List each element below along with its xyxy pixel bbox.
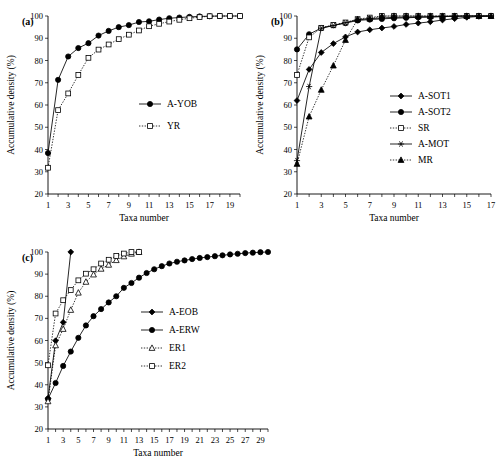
data-point-filled-circle [96, 33, 101, 38]
data-point-open-square [197, 15, 202, 20]
series-path [48, 252, 71, 398]
y-axis-title: Accumulative density (%) [255, 55, 266, 155]
legend-label: SR [418, 123, 430, 133]
data-point-filled-circle [144, 270, 149, 275]
x-tick-label: 7 [91, 435, 95, 445]
data-point-filled-diamond [355, 29, 361, 35]
data-point-filled-circle [129, 280, 134, 285]
data-point-open-square [207, 14, 212, 19]
data-point-open-square [106, 42, 111, 47]
x-tick-label: 17 [487, 200, 496, 210]
data-point-open-square [96, 47, 101, 52]
legend-label: A-ERW [169, 325, 200, 335]
y-tick-label: 40 [35, 380, 44, 390]
data-point-open-square [76, 278, 81, 283]
data-point-open-square [126, 32, 131, 37]
data-point-open-square [46, 165, 51, 170]
panel-a: (a)2030405060708090100135791113151719Tax… [0, 0, 250, 238]
x-tick-label: 11 [120, 435, 128, 445]
data-point-open-square [114, 254, 119, 259]
y-tick-label: 60 [35, 336, 44, 346]
series-A-EOB [45, 249, 74, 401]
data-point-filled-triangle [318, 87, 324, 93]
y-axis-title: Accumulative density (%) [6, 291, 17, 391]
data-point-filled-circle [116, 25, 121, 30]
data-point-filled-diamond [415, 20, 421, 26]
data-point-open-square [86, 55, 91, 60]
x-tick-label: 13 [135, 435, 144, 445]
data-point-open-square [150, 364, 155, 369]
legend-item-A-ERW: A-ERW [141, 325, 200, 335]
data-point-open-triangle [106, 262, 112, 268]
data-point-filled-circle [182, 258, 187, 263]
data-point-filled-circle [99, 306, 104, 311]
y-tick-label: 40 [35, 145, 44, 155]
y-tick-label: 90 [284, 33, 293, 43]
data-point-filled-diamond [379, 25, 385, 31]
x-tick-label: 17 [205, 200, 214, 210]
x-tick-label: 9 [107, 435, 111, 445]
data-point-open-square [157, 21, 162, 26]
data-point-filled-circle [126, 23, 131, 28]
y-tick-label: 20 [35, 189, 44, 199]
y-tick-label: 30 [284, 167, 293, 177]
data-point-open-square [99, 261, 104, 266]
data-point-open-square [238, 14, 243, 19]
figure-accumulative-density-curves: (a)2030405060708090100135791113151719Tax… [0, 0, 501, 475]
data-point-open-triangle [53, 342, 59, 348]
x-tick-label: 11 [145, 200, 153, 210]
x-tick-label: 23 [211, 435, 220, 445]
data-point-open-square [177, 17, 182, 22]
data-point-filled-circle [205, 254, 210, 259]
x-tick-label: 29 [256, 435, 265, 445]
data-point-filled-diamond [403, 22, 409, 28]
series-A-ERW [45, 249, 270, 401]
legend-item-A-YOB: A-YOB [139, 99, 197, 109]
series-path [48, 16, 240, 153]
data-point-filled-circle [136, 19, 141, 24]
legend: A-YOBYR [139, 99, 197, 131]
y-tick-label: 30 [35, 167, 44, 177]
data-point-filled-diamond [318, 50, 324, 56]
data-point-filled-diamond [306, 67, 312, 73]
legend-item-ER1: ER1 [141, 343, 186, 353]
data-point-filled-circle [76, 45, 81, 50]
legend-label: YR [167, 121, 181, 131]
data-point-filled-circle [197, 255, 202, 260]
y-tick-label: 70 [35, 78, 44, 88]
data-point-filled-triangle [294, 161, 300, 167]
y-tick-label: 20 [35, 424, 44, 434]
axes: 2030405060708090100135791113151719212325… [30, 247, 268, 445]
legend-item-A-SOT1: A-SOT1 [390, 91, 451, 101]
data-point-filled-circle [190, 256, 195, 261]
data-point-filled-circle [106, 28, 111, 33]
x-axis-title: Taxa number [133, 448, 184, 458]
y-tick-label: 40 [284, 145, 293, 155]
data-point-filled-circle [121, 285, 126, 290]
data-point-filled-circle [83, 323, 88, 328]
data-point-filled-diamond [68, 249, 74, 255]
series-path [48, 252, 268, 399]
data-point-open-square [129, 250, 134, 255]
panel-c: (c)2030405060708090100135791113151719212… [0, 236, 280, 475]
data-point-filled-circle [76, 335, 81, 340]
data-point-filled-circle [227, 252, 232, 257]
data-point-open-square [147, 24, 152, 29]
data-point-filled-circle [294, 47, 299, 52]
data-point-filled-circle [159, 264, 164, 269]
x-tick-label: 7 [107, 200, 111, 210]
data-point-open-square [46, 363, 51, 368]
series-path [48, 16, 240, 168]
y-tick-label: 70 [284, 78, 293, 88]
data-point-open-square [307, 35, 312, 40]
y-tick-label: 100 [30, 247, 43, 257]
data-point-open-square [187, 16, 192, 21]
legend-label: A-EOB [169, 307, 198, 317]
data-point-filled-circle [86, 41, 91, 46]
data-point-filled-diamond [149, 309, 155, 315]
x-axis-title: Taxa number [119, 213, 170, 223]
y-tick-label: 90 [35, 269, 44, 279]
data-point-open-triangle [68, 307, 74, 313]
y-tick-label: 90 [35, 33, 44, 43]
y-tick-label: 50 [35, 358, 44, 368]
